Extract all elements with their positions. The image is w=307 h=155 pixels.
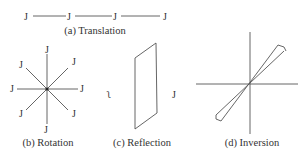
rotation-j-right: J [80,83,84,94]
rotation-j-left: J [10,83,14,94]
symmetry-operations-figure: J J J J (a) Translation J J J J J J J J … [0,0,307,155]
panel-translation: J J J J (a) Translation [24,11,167,37]
rotation-j-bottom-right: J [72,108,76,119]
rotation-j-bottom-left: J [19,108,23,119]
caption-rotation: (b) Rotation [22,137,74,149]
panel-reflection: ʅ J (c) Reflection [106,43,176,149]
rotation-j-bottom: J [44,124,48,135]
rotation-j-top-right: J [72,56,76,67]
rotation-j-top-left: J [19,59,23,70]
rotation-j-top: J [45,44,49,55]
panel-rotation: J J J J J J J J (b) Rotation [10,44,84,149]
translation-j-2: J [67,11,71,22]
reflection-j-original: J [172,89,176,100]
caption-translation: (a) Translation [64,25,126,37]
caption-inversion: (d) Inversion [225,137,280,149]
panel-inversion: (d) Inversion [196,32,298,149]
translation-j-3: J [113,11,117,22]
rotation-center-dot [45,87,48,90]
caption-reflection: (c) Reflection [113,137,172,149]
translation-j-1: J [24,11,28,22]
mirror-plane [135,43,157,129]
inversion-j-bottom-left [216,115,221,121]
translation-j-4: J [163,11,167,22]
reflection-j-mirrored: ʅ [106,89,111,100]
inversion-j-top-right [278,45,286,51]
